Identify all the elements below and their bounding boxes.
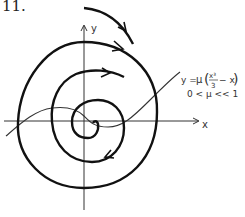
phase-portrait: y x y = μ ( x³ 3 − x ) 0 < μ << 1 (0, 0, 245, 217)
nullcline-curve (6, 72, 180, 136)
limit-cycle (18, 42, 157, 188)
nullcline-equation: y = μ ( x³ 3 − x ) (181, 71, 238, 90)
inner-spiral (52, 70, 124, 162)
svg-text:y =: y = (181, 75, 197, 85)
x-axis-label: x (202, 119, 208, 130)
svg-text:μ: μ (196, 74, 203, 85)
svg-text:): ) (233, 71, 238, 87)
axes (4, 25, 199, 210)
y-axis-label: y (91, 23, 97, 34)
mu-condition: 0 < μ << 1 (187, 89, 238, 99)
svg-text:x³: x³ (209, 72, 216, 80)
inner-spiral-arrow-top-icon (101, 68, 110, 77)
